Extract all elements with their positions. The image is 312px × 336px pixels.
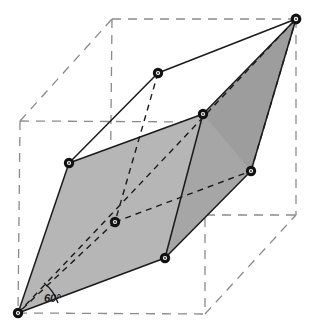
vertex-center-inner bbox=[110, 217, 120, 227]
vertex-right-lower bbox=[246, 166, 256, 176]
cube-edge-front-left bbox=[18, 121, 20, 313]
vertex-mid-upper bbox=[198, 109, 208, 119]
vertex-bottom bbox=[13, 308, 23, 318]
vertex-left-upper bbox=[64, 158, 74, 168]
cube-edge-front-top bbox=[20, 121, 205, 122]
angle-label-60: 60° bbox=[44, 292, 61, 304]
vertex-top bbox=[291, 14, 302, 25]
rhombohedron-hidden-edges bbox=[18, 19, 296, 313]
rhombohedron-in-cube-diagram bbox=[0, 0, 312, 336]
face-front-left bbox=[18, 114, 203, 313]
figure-canvas: 60° bbox=[0, 0, 312, 336]
cube-edge-depth-bottom-right bbox=[205, 215, 296, 314]
vertex-lower-mid bbox=[160, 253, 170, 263]
cube-edge-depth-top-left bbox=[20, 19, 112, 121]
hidden-edge-diagonal-body bbox=[18, 19, 296, 313]
cube-edge-front-bottom bbox=[18, 313, 205, 314]
vertex-top-back bbox=[153, 68, 163, 78]
